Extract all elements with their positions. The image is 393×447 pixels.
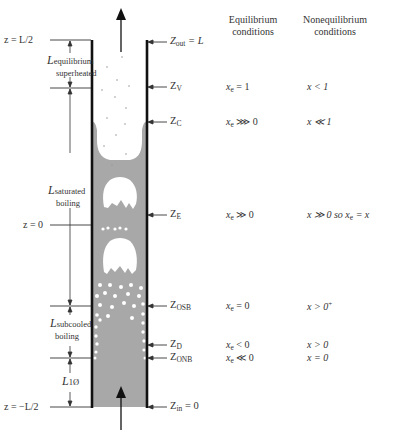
length-line2: boiling [48, 198, 80, 208]
station-leaders [148, 40, 167, 409]
eq-rel: ⋙ 0 [234, 116, 258, 127]
noneq-text: x ≫ 0 so x [307, 209, 350, 220]
length-subscript: saturated [55, 186, 86, 196]
station-subscript: OSB [176, 303, 191, 312]
nonequilibrium-header-line1: Nonequilibrium [290, 14, 380, 26]
station-subscript: D [176, 342, 181, 351]
length-line2: superheated [44, 68, 97, 78]
station-subscript: ONB [176, 355, 192, 364]
length-symbol: L [48, 183, 55, 197]
station-suffix: = L [185, 35, 203, 46]
length-symbol: L [62, 374, 69, 388]
nonequilibrium-header-line2: conditions [290, 26, 380, 38]
flow-out-arrow [116, 8, 126, 52]
station-subscript: V [176, 84, 181, 93]
z-top-label: z = L/2 [4, 34, 33, 45]
noneq-condition-osb: x > 0+ [307, 300, 332, 312]
length-subscript: 1Ø [69, 377, 79, 387]
length-symbol: L [50, 316, 57, 330]
eq-condition-osb: xe = 0 [226, 300, 249, 313]
noneq-tail: = x [353, 209, 369, 220]
noneq-condition-e: x ≫ 0 so xe = x [307, 209, 369, 222]
noneq-condition-d: x > 0 [307, 339, 328, 350]
z-mid-label: z = 0 [23, 219, 43, 230]
eq-rel: = 1 [234, 81, 250, 92]
eq-condition-e: xe ≫ 0 [226, 209, 254, 222]
length-subcooled-label: Lsubcooled boiling [50, 318, 91, 342]
length-saturated-label: Lsaturated boiling [48, 185, 85, 209]
length-line2: boiling [50, 331, 79, 341]
station-z-in: Zin = 0 [170, 400, 199, 413]
noneq-sup: + [328, 300, 332, 308]
eq-rel: ≪ 0 [234, 352, 254, 363]
length-subscript: equilibrium [54, 56, 94, 66]
noneq-text: x > 0 [307, 301, 328, 312]
station-z-c: ZC [170, 115, 181, 128]
eq-condition-v: xe = 1 [226, 81, 249, 94]
eq-rel: ≫ 0 [234, 209, 254, 220]
equilibrium-header: Equilibrium conditions [213, 14, 293, 38]
nonequilibrium-header: Nonequilibrium conditions [290, 14, 380, 38]
station-z-out: Zout = L [170, 35, 204, 48]
eq-condition-onb: xe ≪ 0 [226, 352, 254, 365]
length-symbol: L [47, 53, 54, 67]
eq-condition-c: xe ⋙ 0 [226, 116, 258, 129]
z-bottom-label: z = −L/2 [4, 401, 39, 412]
equilibrium-header-line2: conditions [213, 26, 293, 38]
dimension-lines [68, 41, 72, 406]
station-z-onb: ZONB [170, 351, 192, 364]
length-subscript: subcooled [57, 319, 91, 329]
station-subscript: out [176, 39, 186, 48]
station-z-osb: ZOSB [170, 299, 191, 312]
eq-condition-d: xe < 0 [226, 339, 249, 352]
length-superheated-label: Lequilibrium superheated [44, 55, 97, 79]
station-z-d: ZD [170, 338, 182, 351]
station-z-e: ZE [170, 208, 181, 221]
station-subscript: E [176, 212, 181, 221]
noneq-condition-onb: x = 0 [307, 352, 328, 363]
eq-rel: = 0 [234, 300, 250, 311]
length-single-phase-label: L1Ø [62, 376, 79, 388]
station-z-v: ZV [170, 80, 182, 93]
eq-rel: < 0 [234, 339, 250, 350]
droplets [101, 56, 130, 166]
station-suffix: = 0 [182, 400, 198, 411]
noneq-condition-c: x ≪ 1 [307, 116, 331, 127]
equilibrium-header-line1: Equilibrium [213, 14, 293, 26]
station-subscript: C [176, 119, 181, 128]
noneq-condition-v: x < 1 [307, 81, 328, 92]
